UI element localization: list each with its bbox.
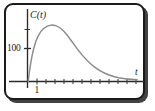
y-tick-label-100: 100 (7, 44, 20, 54)
x-tick-label-1: 1 (35, 86, 40, 96)
y-axis-name-label: C(t) (30, 10, 46, 20)
x-axis-name-label: t (135, 68, 138, 78)
figure-container: C(t) 100 1 t (0, 0, 155, 111)
figure-border-frame (4, 3, 145, 100)
